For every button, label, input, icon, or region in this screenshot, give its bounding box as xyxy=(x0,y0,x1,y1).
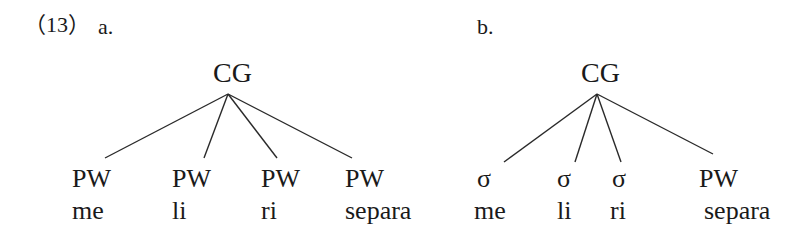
word-text: li xyxy=(557,198,571,224)
syllable-node: σ xyxy=(477,166,491,192)
child-node: PW xyxy=(699,166,738,192)
word-text: me xyxy=(474,198,506,224)
tree-branches-b xyxy=(0,0,809,251)
syllable-node: σ xyxy=(612,166,626,192)
syllable-node: σ xyxy=(557,166,571,192)
word-text: ri xyxy=(610,198,626,224)
branch-line xyxy=(504,94,597,162)
word-text: separa xyxy=(704,198,770,224)
branch-line xyxy=(575,94,597,162)
